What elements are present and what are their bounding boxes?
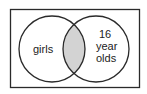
set-label-16-line3: olds bbox=[96, 52, 117, 64]
venn-diagram: girls 16 year olds bbox=[0, 0, 147, 94]
set-label-16-line2: year bbox=[96, 40, 118, 52]
set-label-16-line1: 16 bbox=[99, 28, 111, 40]
set-label-girls: girls bbox=[33, 43, 54, 55]
